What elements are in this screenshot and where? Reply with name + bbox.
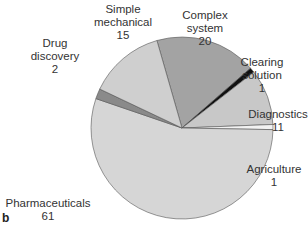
label-text: Complex	[170, 9, 240, 22]
label-text: system	[170, 22, 240, 35]
label-text: Pharmaceuticals	[0, 197, 96, 210]
label-text: Drug	[30, 37, 80, 50]
label-agriculture: Agriculture 1	[244, 163, 304, 189]
label-value: 1	[244, 176, 304, 189]
label-simple-mechanical: Simple mechanical 15	[88, 3, 158, 42]
label-text: Agriculture	[244, 163, 304, 176]
label-value: 20	[170, 35, 240, 48]
label-text: Simple	[88, 3, 158, 16]
label-value: 2	[30, 63, 80, 76]
label-drug-discovery: Drug discovery 2	[30, 37, 80, 76]
label-value: 11	[248, 121, 308, 134]
label-text: solution	[232, 69, 292, 82]
panel-label: b	[2, 211, 9, 225]
label-value: 61	[0, 210, 96, 223]
label-value: 1	[232, 82, 292, 95]
label-value: 15	[88, 29, 158, 42]
label-text: discovery	[30, 50, 80, 63]
label-text: Diagnostics	[248, 108, 308, 121]
label-complex-system: Complex system 20	[170, 9, 240, 48]
label-text: mechanical	[88, 16, 158, 29]
label-text: Clearing	[232, 56, 292, 69]
label-pharmaceuticals: Pharmaceuticals 61	[0, 197, 96, 223]
label-clearing-solution: Clearing solution 1	[232, 56, 292, 95]
label-diagnostics: Diagnostics 11	[248, 108, 308, 134]
